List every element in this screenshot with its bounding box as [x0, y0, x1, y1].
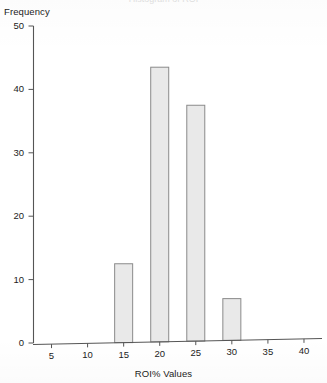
y-tick-label: 30 — [0, 147, 24, 158]
y-tick-label: 50 — [0, 20, 24, 31]
x-axis-title: ROI% Values — [0, 368, 327, 379]
histogram-bar — [187, 105, 205, 341]
y-tick-label: 0 — [0, 337, 24, 348]
x-tick-label: 35 — [253, 346, 283, 357]
histogram-bar — [115, 264, 133, 343]
x-axis-line — [33, 339, 322, 345]
x-tick-label: 30 — [217, 346, 247, 357]
histogram-plot — [0, 0, 327, 383]
chart-page: Histogram of ROI Frequency 0102030405051… — [0, 0, 327, 383]
y-tick-label: 20 — [0, 210, 24, 221]
x-tick-label: 25 — [181, 347, 211, 358]
x-tick-label: 15 — [109, 349, 139, 360]
histogram-bar — [223, 299, 241, 341]
bars-group — [115, 67, 241, 342]
y-tick-label: 40 — [0, 83, 24, 94]
x-tick-label: 40 — [289, 345, 319, 356]
x-tick-label: 10 — [73, 349, 103, 360]
y-tick-label: 10 — [0, 274, 24, 285]
y-tick-marks-group — [29, 26, 34, 343]
x-tick-label: 5 — [37, 350, 67, 361]
histogram-bar — [151, 67, 169, 342]
x-tick-label: 20 — [145, 348, 175, 359]
